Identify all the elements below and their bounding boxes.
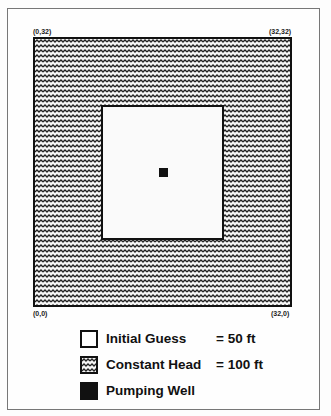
corner-label-bottom-right: (32,0) [271, 310, 289, 317]
solid-square-icon [80, 382, 98, 400]
legend-value: = 100 ft [216, 357, 263, 372]
legend-value: = 50 ft [216, 331, 255, 346]
legend-label: Initial Guess [106, 331, 186, 346]
wavy-pattern-icon [80, 356, 98, 374]
empty-square-icon [80, 330, 98, 348]
pumping-well-marker [159, 168, 168, 177]
legend-label: Constant Head [106, 357, 201, 372]
corner-label-top-left: (0,32) [33, 28, 51, 35]
legend-label: Pumping Well [106, 383, 195, 398]
corner-label-bottom-left: (0,0) [33, 310, 47, 317]
corner-label-top-right: (32,32) [269, 28, 291, 35]
